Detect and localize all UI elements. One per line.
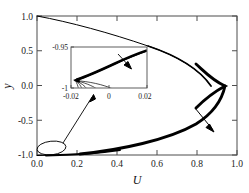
zoom-inset: -0.95 -1 -0.02 0 0.02: [52, 43, 152, 101]
y-tick-label: 0.0: [21, 81, 33, 91]
inset-x-tick-label: -0.02: [63, 92, 79, 101]
chart-svg: 0.0 0.2 0.4 0.6 0.8 1.0 1.0 0.5 0.0 -0.5…: [0, 0, 249, 193]
inset-y-tick-label: -0.95: [52, 43, 68, 52]
main-flow-arrowhead: [206, 124, 214, 132]
x-axis-label: U: [133, 173, 143, 187]
y-tick-labels: 1.0 0.5 0.0 -0.5 -1.0: [18, 12, 33, 161]
y-tick-label: 0.5: [21, 46, 33, 56]
y-tick-label: -1.0: [18, 150, 33, 160]
x-tick-label: 0.8: [191, 159, 203, 169]
x-tick-label: 0.2: [71, 159, 83, 169]
x-tick-label: 0.6: [151, 159, 163, 169]
x-tick-label: 0.0: [31, 159, 43, 169]
inset-x-tick-label: 0: [107, 92, 111, 101]
inset-x-tick-label: 0.02: [138, 92, 151, 101]
upper-branch-thicken-path: [148, 46, 211, 86]
lower-branch-thick-path: [80, 86, 225, 154]
x-tick-labels: 0.0 0.2 0.4 0.6 0.8 1.0: [31, 159, 243, 169]
y-tick-label: -0.5: [18, 116, 33, 126]
inset-leader-arrow: [63, 95, 96, 144]
inset-leader-arrowhead: [90, 95, 96, 103]
x-tick-label: 0.4: [111, 159, 123, 169]
detail-ellipse: [36, 140, 66, 157]
x-tick-label: 1.0: [231, 159, 243, 169]
y-axis-label: y: [0, 83, 14, 90]
y-tick-label: 1.0: [21, 12, 33, 22]
figure-container: 0.0 0.2 0.4 0.6 0.8 1.0 1.0 0.5 0.0 -0.5…: [0, 0, 249, 193]
